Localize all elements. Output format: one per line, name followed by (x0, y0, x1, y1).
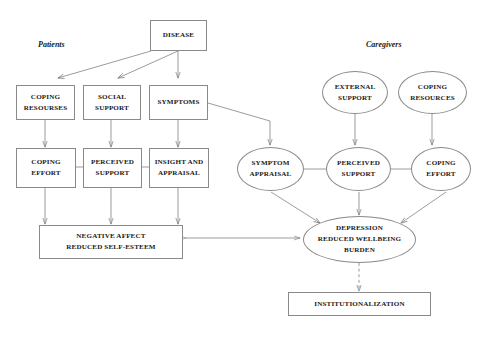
node-symptoms: SYMPTOMS (149, 85, 208, 120)
node-symptom-appraisal-line-2: APPRAISAL (250, 169, 292, 180)
node-depression-line-3: BURDEN (344, 245, 375, 256)
node-disease-line-1: DISEASE (163, 30, 194, 41)
node-symptom-appraisal: SYMPTOM APPRAISAL (237, 147, 304, 191)
edge-symptom-appraisal-depression (271, 192, 320, 223)
node-social-support: SOCIAL SUPPORT (83, 85, 141, 120)
node-external-support: EXTERNAL SUPPORT (322, 71, 388, 114)
node-insight-and-appraisal-line-1: INSIGHT AND (155, 157, 204, 168)
edge-disease-social-support (118, 51, 178, 78)
node-coping-effort-patient-line-1: COPING (31, 157, 60, 168)
node-coping-resourses-line-1: COPING (31, 92, 60, 103)
node-external-support-line-2: SUPPORT (338, 93, 372, 104)
node-coping-effort-caregiver-line-2: EFFORT (426, 169, 455, 180)
node-social-support-line-2: SUPPORT (95, 103, 129, 114)
node-insight-and-appraisal-line-2: APPRAISAL (158, 168, 200, 179)
node-symptom-appraisal-line-1: SYMPTOM (252, 158, 290, 169)
group-label-patients: Patients (38, 40, 65, 49)
node-external-support-line-1: EXTERNAL (335, 82, 376, 93)
node-perceived-support-caregiver-line-1: PERCEIVED (337, 158, 380, 169)
node-depression-line-2: REDUCED WELLBEING (318, 234, 401, 245)
edge-disease-coping-resourses (58, 51, 151, 78)
node-symptoms-line-1: SYMPTOMS (157, 97, 199, 108)
node-disease: DISEASE (150, 20, 207, 51)
node-coping-effort-caregiver: COPING EFFORT (411, 147, 471, 191)
diagram-canvas: Patients Caregivers DISEASE COPING RESOU… (0, 0, 490, 338)
node-negative-affect-line-2: REDUCED SELF-ESTEEM (66, 242, 155, 253)
node-social-support-line-1: SOCIAL (98, 92, 126, 103)
node-coping-resources-caregiver-line-1: COPING (418, 82, 447, 93)
node-depression: DEPRESSION REDUCED WELLBEING BURDEN (303, 216, 416, 263)
edge-coping-effort-c-depression (401, 192, 446, 223)
node-coping-resources-caregiver-line-2: RESOURCES (410, 93, 455, 104)
node-perceived-support-patient: PERCEIVED SUPPORT (83, 148, 142, 188)
node-depression-line-1: DEPRESSION (336, 223, 383, 234)
node-institutionalization: INSTITUTIONALIZATION (288, 292, 431, 316)
edge-symptoms-symptom-appraisal (208, 103, 270, 145)
node-insight-and-appraisal: INSIGHT AND APPRAISAL (149, 148, 209, 188)
node-perceived-support-patient-line-2: SUPPORT (96, 168, 130, 179)
node-perceived-support-caregiver: PERCEIVED SUPPORT (326, 147, 391, 191)
node-perceived-support-caregiver-line-2: SUPPORT (342, 169, 376, 180)
node-negative-affect: NEGATIVE AFFECT REDUCED SELF-ESTEEM (39, 225, 183, 259)
node-coping-effort-patient: COPING EFFORT (16, 148, 76, 188)
node-coping-effort-caregiver-line-1: COPING (426, 158, 455, 169)
node-perceived-support-patient-line-1: PERCEIVED (91, 157, 134, 168)
group-label-caregivers: Caregivers (366, 40, 402, 49)
node-institutionalization-line-1: INSTITUTIONALIZATION (314, 299, 404, 310)
node-coping-resourses-line-2: RESOURSES (24, 103, 68, 114)
node-coping-resources-caregiver: COPING RESOURCES (398, 71, 467, 114)
node-coping-effort-patient-line-2: EFFORT (31, 168, 60, 179)
node-negative-affect-line-1: NEGATIVE AFFECT (76, 231, 145, 242)
node-coping-resourses: COPING RESOURSES (16, 85, 75, 120)
